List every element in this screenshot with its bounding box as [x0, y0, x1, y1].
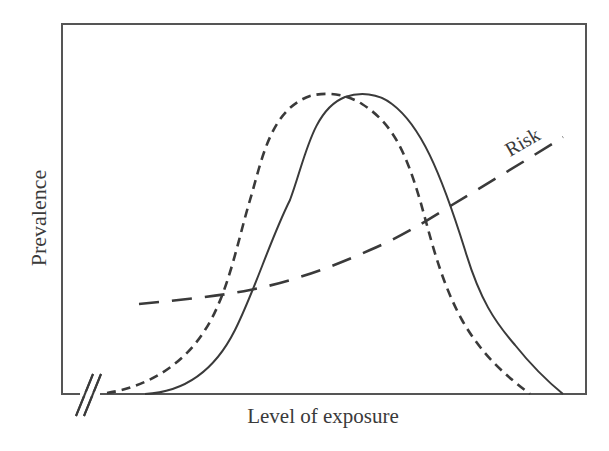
- dashed-distribution-curve: [107, 94, 530, 394]
- x-axis-label: Level of exposure: [247, 404, 399, 428]
- solid-distribution-curve: [145, 94, 563, 394]
- diagram-canvas: Risk Prevalence Level of exposure: [0, 0, 609, 451]
- exposure-prevalence-diagram: Risk Prevalence Level of exposure: [0, 0, 609, 451]
- risk-curve: [139, 137, 563, 304]
- plot-frame: [62, 24, 586, 394]
- risk-label: Risk: [501, 123, 544, 160]
- y-axis-label: Prevalence: [26, 170, 51, 267]
